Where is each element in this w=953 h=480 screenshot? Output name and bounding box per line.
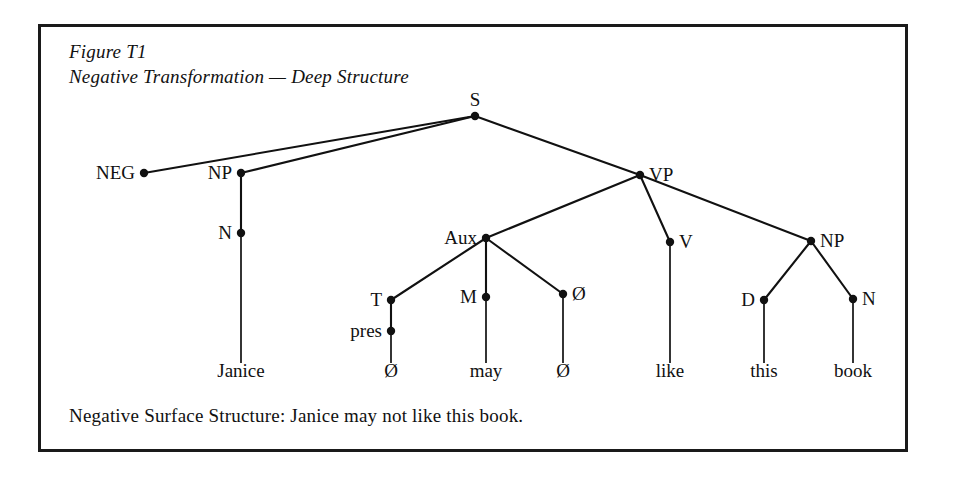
tree-node-dot-zero_a (559, 290, 567, 298)
tree-node-dot-d (760, 296, 768, 304)
syntax-tree: SNEGNPVPNAuxVNPTMØDNpres JaniceØmayØlike… (41, 27, 911, 455)
tree-node-dot-np2 (807, 237, 815, 245)
tree-node-dot-s (471, 112, 479, 120)
tree-node-dot-v (666, 238, 674, 246)
tree-node-label-zero_a: Ø (572, 283, 586, 304)
figure-frame: Figure T1 Negative Transformation — Deep… (38, 24, 908, 452)
tree-node-label-n2: N (862, 288, 876, 309)
tree-edge-vp-aux (486, 175, 640, 238)
tree-node-dot-vp (636, 171, 644, 179)
tree-node-dot-pres (387, 327, 395, 335)
tree-node-label-v: V (679, 231, 693, 252)
tree-terminal-t-book: book (834, 360, 873, 381)
tree-node-dot-neg (140, 169, 148, 177)
tree-node-dot-n2 (849, 295, 857, 303)
tree-edge-s-vp (475, 116, 640, 175)
tree-node-dot-m (482, 293, 490, 301)
tree-node-label-np1: NP (208, 162, 232, 183)
tree-node-label-vp: VP (649, 164, 673, 185)
tree-node-label-neg: NEG (96, 162, 135, 183)
tree-terminal-t-zero-1: Ø (384, 360, 398, 381)
tree-node-label-np2: NP (820, 230, 844, 251)
tree-terminal-t-zero-2: Ø (556, 360, 570, 381)
tree-node-dot-aux (482, 234, 490, 242)
tree-node-label-d: D (741, 289, 755, 310)
tree-terminal-t-janice: Janice (217, 360, 264, 381)
tree-edge-aux-zero_a (486, 238, 563, 294)
tree-node-label-t: T (370, 289, 382, 310)
tree-terminal-t-this: this (750, 360, 777, 381)
tree-terminal-t-may: may (470, 360, 503, 381)
tree-edge-np2-d (764, 241, 811, 300)
tree-node-label-aux: Aux (444, 227, 477, 248)
tree-terminal-labels-layer: JaniceØmayØlikethisbook (217, 360, 872, 381)
tree-node-label-pres: pres (350, 320, 382, 341)
tree-edge-s-np1 (241, 116, 475, 173)
tree-node-dot-np1 (237, 169, 245, 177)
figure-page: Figure T1 Negative Transformation — Deep… (0, 0, 953, 480)
figure-caption: Negative Surface Structure: Janice may n… (69, 405, 523, 427)
tree-node-label-s: S (470, 89, 481, 110)
tree-terminal-t-like: like (656, 360, 685, 381)
tree-node-dot-n1 (237, 229, 245, 237)
tree-node-dot-t (387, 296, 395, 304)
tree-node-label-n1: N (218, 222, 232, 243)
tree-edge-s-neg (144, 116, 475, 173)
tree-node-label-m: M (460, 286, 477, 307)
